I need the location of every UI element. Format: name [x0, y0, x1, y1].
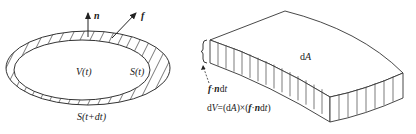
volume-label: V(t)	[76, 66, 92, 78]
thickness-label: f·ndt	[208, 84, 227, 94]
inner-surface-label: S(t)	[130, 66, 145, 78]
normal-vector-label: n	[94, 10, 100, 21]
left-panel-control-volume: n f V(t) S(t) S(t+dt)	[0, 0, 210, 123]
leader-arrowhead-icon	[201, 65, 206, 70]
area-element-label: dA	[300, 51, 312, 62]
right-panel-surface-element: dA f·ndt dV=(dA)×(f·ndt)	[201, 11, 403, 122]
velocity-vector-label: f	[141, 10, 146, 21]
thickness-brace-icon	[201, 40, 207, 63]
diagram-canvas: n f V(t) S(t) S(t+dt)	[0, 0, 416, 134]
outer-surface-label: S(t+dt)	[77, 111, 107, 123]
volume-equation-label: dV=(dA)×(f·ndt)	[207, 103, 271, 114]
